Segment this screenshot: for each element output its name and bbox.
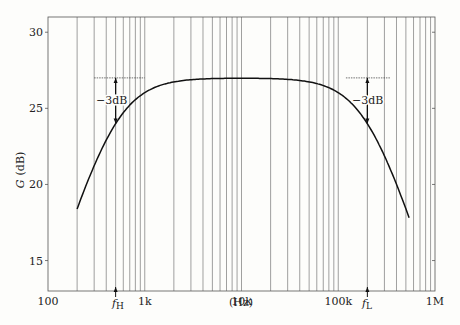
marker-arrow-icon bbox=[114, 287, 118, 292]
y-tick-label: 30 bbox=[29, 26, 43, 39]
x-tick-label: 1M bbox=[426, 295, 444, 308]
fL-marker-label: fL bbox=[361, 297, 372, 311]
arrowhead-up-icon bbox=[114, 78, 118, 83]
marker-arrow-icon bbox=[365, 287, 369, 292]
bode-gain-chart: 15202530 1001k10k100k1M G(dB) (Hz) fH fL… bbox=[0, 0, 460, 325]
y-tick-label: 20 bbox=[29, 178, 43, 191]
minus-3db-right-label: −3dB bbox=[352, 94, 383, 107]
x-tick-label: 1k bbox=[138, 295, 152, 308]
x-tick-label: 100 bbox=[38, 295, 59, 308]
y-axis-label: G(dB) bbox=[14, 152, 27, 189]
vertical-gridlines bbox=[77, 17, 430, 291]
y-tick-label: 15 bbox=[29, 255, 43, 268]
x-tick-label: 100k bbox=[324, 295, 352, 308]
arrowhead-up-icon bbox=[365, 78, 369, 83]
minus-3db-left-label: −3dB bbox=[96, 94, 127, 107]
y-tick-label: 25 bbox=[29, 102, 43, 115]
annotations bbox=[94, 78, 391, 297]
fH-marker-label: fH bbox=[111, 297, 124, 311]
x-axis-label: (Hz) bbox=[229, 296, 253, 309]
